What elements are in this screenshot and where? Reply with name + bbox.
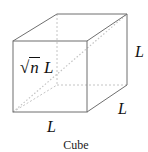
height-label: L bbox=[135, 44, 144, 60]
sqrt-variable: n bbox=[29, 57, 40, 77]
depth-label: L bbox=[118, 101, 127, 117]
width-label: L bbox=[47, 119, 56, 135]
cube-figure: √n L L L L Cube bbox=[0, 0, 148, 152]
hidden-edge-bottom-left-depth bbox=[13, 85, 57, 112]
edge-top-right-depth bbox=[87, 14, 127, 41]
sqrt-symbol: √ bbox=[20, 58, 29, 77]
diagonal-length-symbol: L bbox=[40, 58, 54, 77]
figure-caption: Cube bbox=[0, 138, 148, 152]
diagonal-length-label: √n L bbox=[20, 59, 54, 76]
edge-top-left-depth bbox=[13, 14, 57, 41]
